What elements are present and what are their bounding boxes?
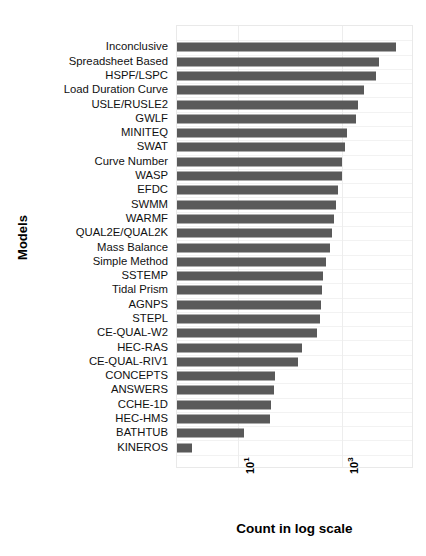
y-axis-tick-label: HEC-HMS (115, 412, 168, 423)
gridline-horizontal (177, 55, 412, 56)
bar (177, 286, 322, 295)
gridline-horizontal (177, 269, 412, 270)
gridline-horizontal (177, 169, 412, 170)
gridline-horizontal (177, 412, 412, 413)
bar (177, 129, 347, 138)
bar (177, 357, 298, 366)
gridline-horizontal (177, 255, 412, 256)
x-axis-title: Count in log scale (176, 521, 413, 536)
gridline-horizontal (177, 112, 412, 113)
gridline-horizontal (177, 155, 412, 156)
bar (177, 414, 270, 423)
y-axis-tick-label: SWAT (137, 141, 168, 152)
gridline-horizontal (177, 69, 412, 70)
bar (177, 400, 271, 409)
gridline-horizontal (177, 426, 412, 427)
y-axis-tick-label: USLE/RUSLE2 (91, 98, 168, 109)
y-axis-tick-label: ANSWERS (111, 384, 168, 395)
bar (177, 229, 332, 238)
y-axis-tick-label: Load Duration Curve (64, 84, 168, 95)
bar (177, 443, 192, 452)
bar (177, 272, 323, 281)
y-axis-tick-label: WASP (135, 170, 168, 181)
y-axis-tick-label: SWMM (131, 198, 168, 209)
gridline-horizontal (177, 212, 412, 213)
gridline-horizontal (177, 298, 412, 299)
bar (177, 372, 275, 381)
gridline-horizontal (177, 326, 412, 327)
y-axis-tick-label: CCHE-1D (118, 398, 168, 409)
y-axis-tick-label: AGNPS (128, 298, 168, 309)
bar (177, 300, 321, 309)
gridline-horizontal (177, 183, 412, 184)
bar (177, 314, 320, 323)
y-axis-tick-label: HEC-RAS (117, 341, 168, 352)
y-axis-tick-label: EFDC (137, 184, 168, 195)
gridline-horizontal (177, 40, 412, 41)
y-axis-tick-label: GWLF (135, 112, 168, 123)
plot-area (176, 25, 413, 468)
y-axis-tick-label: SSTEMP (122, 270, 168, 281)
bar (177, 172, 342, 181)
gridline-horizontal (177, 369, 412, 370)
bar (177, 72, 376, 81)
bar (177, 329, 317, 338)
bar-chart-figure: Models InconclusiveSpreadsheet BasedHSPF… (0, 0, 426, 556)
bar (177, 243, 330, 252)
bar (177, 86, 364, 95)
bar (177, 157, 342, 166)
bar (177, 257, 326, 266)
bar (177, 186, 338, 195)
gridline-horizontal (177, 226, 412, 227)
y-axis-tick-label: Mass Balance (97, 241, 168, 252)
gridline-horizontal (177, 140, 412, 141)
y-axis-tick-label: MINITEQ (121, 127, 168, 138)
gridline-horizontal (177, 283, 412, 284)
x-axis-tick-label: 103 (346, 457, 360, 474)
bar (177, 429, 244, 438)
gridline-horizontal (177, 383, 412, 384)
gridline-horizontal (177, 126, 412, 127)
y-axis-tick-label: Simple Method (93, 255, 168, 266)
gridline-horizontal (177, 455, 412, 456)
gridline-horizontal (177, 340, 412, 341)
gridline-horizontal (177, 240, 412, 241)
y-axis-tick-label: WARMF (126, 212, 168, 223)
y-axis-tick-label: Spreadsheet Based (69, 55, 168, 66)
y-axis-tick-labels: InconclusiveSpreadsheet BasedHSPF/LSPCLo… (0, 25, 172, 468)
gridline-horizontal (177, 83, 412, 84)
y-axis-tick-label: Tidal Prism (112, 284, 168, 295)
y-axis-tick-label: QUAL2E/QUAL2K (76, 227, 168, 238)
gridline-horizontal (177, 312, 412, 313)
bar (177, 57, 379, 66)
y-axis-tick-label: CONCEPTS (105, 370, 168, 381)
x-axis-tick-label: 101 (242, 457, 256, 474)
y-axis-tick-label: CE-QUAL-W2 (97, 327, 168, 338)
bar (177, 343, 302, 352)
bar (177, 143, 345, 152)
bar (177, 114, 356, 123)
y-axis-tick-label: HSPF/LSPC (105, 70, 168, 81)
bar (177, 214, 334, 223)
y-axis-tick-label: CE-QUAL-RIV1 (89, 355, 168, 366)
gridline-horizontal (177, 398, 412, 399)
y-axis-tick-label: KINEROS (117, 441, 168, 452)
gridline-horizontal (177, 440, 412, 441)
gridline-horizontal (177, 197, 412, 198)
bar (177, 200, 336, 209)
y-axis-tick-label: Curve Number (95, 155, 168, 166)
gridline-horizontal (177, 355, 412, 356)
gridline-horizontal (177, 97, 412, 98)
bar (177, 43, 396, 52)
y-axis-tick-label: BATHTUB (116, 427, 168, 438)
y-axis-tick-label: STEPL (132, 312, 168, 323)
y-axis-tick-label: Inconclusive (106, 41, 168, 52)
bar (177, 100, 358, 109)
bar (177, 386, 274, 395)
